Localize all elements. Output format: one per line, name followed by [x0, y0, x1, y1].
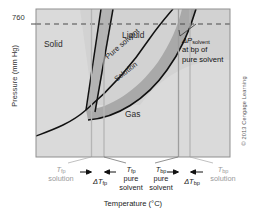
delta-p-italic: ΔP	[182, 36, 192, 45]
delta-p-line3: pure solvent	[182, 55, 223, 64]
leader-tfp-pure	[104, 157, 126, 163]
delta-tfp-symbol: ΔTfp	[93, 177, 107, 186]
tick-label-tfp-solution: Tfp solution	[38, 165, 84, 183]
tbp-pure-sub: bp	[160, 168, 166, 174]
tfp-solution-sub: fp	[61, 168, 66, 174]
leader-tfp-solution	[68, 157, 91, 163]
delta-tfp-sym: ΔT	[93, 177, 102, 186]
tbp-solution-symbol: Tbp	[218, 165, 229, 174]
tbp-pure-line2: pure	[154, 174, 169, 183]
tfp-pure-sub: fp	[131, 168, 136, 174]
y-axis-tick-760: 760	[12, 14, 25, 22]
x-axis-label: Temperature (°C)	[78, 200, 188, 208]
delta-p-annotation: ΔPsolvent at bp of pure solvent	[182, 36, 223, 64]
tbp-solution-line2: solution	[210, 174, 235, 183]
tbp-pure-symbol: Tbp	[156, 165, 167, 174]
leader-tbp-pure	[155, 157, 178, 163]
tfp-pure-symbol: Tfp	[126, 165, 135, 174]
delta-tbp-symbol: ΔTbp	[184, 177, 200, 186]
tfp-solution-line2: solution	[48, 174, 73, 183]
delta-tbp-sym: ΔT	[184, 177, 193, 186]
tick-label-tbp-solution: Tbp solution	[200, 165, 246, 183]
delta-tfp-sub: fp	[102, 180, 107, 186]
copyright-credit: © 2013 Cengage Learning	[242, 63, 248, 159]
leader-tbp-solution	[190, 157, 213, 163]
tfp-solution-symbol: Tfp	[56, 165, 65, 174]
region-label-solid: Solid	[44, 40, 63, 49]
region-label-gas: Gas	[125, 110, 140, 119]
delta-p-subscript: solvent	[192, 39, 210, 45]
delta-tbp-sub: bp	[194, 180, 200, 186]
tfp-pure-line2: pure	[124, 174, 139, 183]
y-axis-label: Pressure (mm Hg)	[11, 21, 19, 131]
tbp-pure-line3: solvent	[149, 183, 172, 192]
delta-p-line2: at bp of	[182, 45, 207, 54]
tbp-solution-sub: bp	[222, 168, 228, 174]
delta-p-symbol: ΔPsolvent	[182, 36, 210, 45]
